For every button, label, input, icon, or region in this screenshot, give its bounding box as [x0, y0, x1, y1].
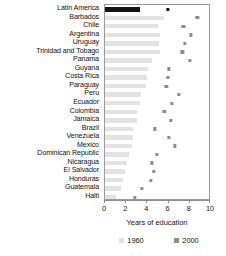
- legend: 1960 2000: [104, 236, 214, 245]
- marker-2000: [173, 144, 176, 147]
- bar-row: [105, 184, 209, 193]
- legend-label-2000: 2000: [182, 236, 198, 245]
- x-tick-label: 6: [166, 204, 170, 213]
- category-label: Nicaragua: [0, 158, 102, 167]
- marker-2000: [140, 187, 143, 190]
- category-label: El Salvador: [0, 166, 102, 175]
- category-label: Latin America: [0, 4, 102, 13]
- x-tick-label: 0: [102, 204, 106, 213]
- marker-2000: [165, 85, 168, 88]
- bar-1960: [105, 186, 121, 190]
- bar-row: [105, 82, 209, 91]
- category-label: Argentina: [0, 30, 102, 39]
- x-tick: [209, 200, 210, 203]
- marker-2000: [167, 136, 170, 139]
- bar-1960: [105, 169, 125, 173]
- bar-row: [105, 167, 209, 176]
- bar-row: [105, 39, 209, 48]
- bar-row: [105, 5, 209, 14]
- category-label: Panama: [0, 55, 102, 64]
- legend-item-1960: 1960: [119, 236, 143, 245]
- bar-row: [105, 14, 209, 23]
- category-label: Paraguay: [0, 81, 102, 90]
- bar-1960: [105, 195, 116, 199]
- bar-1960: [105, 92, 141, 96]
- bar-1960: [105, 161, 127, 165]
- bar-1960: [105, 101, 140, 105]
- plot-area: [104, 4, 210, 200]
- category-label: Trinidad and Tobago: [0, 47, 102, 56]
- x-axis-title: Years of education: [104, 218, 210, 227]
- bar-1960: [105, 135, 133, 139]
- category-label: Venezuela: [0, 132, 102, 141]
- bar-1960: [105, 24, 158, 28]
- bar-1960: [105, 152, 129, 156]
- legend-item-2000: 2000: [174, 236, 198, 245]
- category-label: Uruguay: [0, 38, 102, 47]
- category-label: Peru: [0, 89, 102, 98]
- marker-2000: [167, 67, 170, 70]
- bar-row: [105, 73, 209, 82]
- x-tick-label: 8: [187, 204, 191, 213]
- marker-2000: [169, 119, 172, 122]
- marker-2000: [133, 196, 136, 199]
- marker-2000: [181, 50, 184, 53]
- x-tick: [125, 200, 126, 203]
- bar-row: [105, 48, 209, 57]
- category-label: Colombia: [0, 107, 102, 116]
- marker-2000: [149, 179, 152, 182]
- category-label: Guyana: [0, 64, 102, 73]
- marker-2000: [152, 170, 155, 173]
- marker-2000: [182, 25, 185, 28]
- marker-2000: [163, 110, 166, 113]
- x-tick: [146, 200, 147, 203]
- marker-2000: [166, 76, 169, 79]
- marker-2000: [183, 42, 186, 45]
- bar-1960: [105, 75, 147, 79]
- bar-1960: [105, 127, 133, 131]
- bar-1960: [105, 67, 148, 71]
- bar-row: [105, 56, 209, 65]
- marker-2000: [170, 102, 173, 105]
- category-label: Dominican Republic: [0, 149, 102, 158]
- bar-1960: [105, 50, 160, 54]
- category-label: Honduras: [0, 175, 102, 184]
- marker-2000: [155, 153, 158, 156]
- bar-1960: [105, 33, 160, 37]
- bar-1960: [105, 58, 152, 62]
- bar-row: [105, 31, 209, 40]
- x-tick-label: 10: [206, 204, 214, 213]
- legend-swatch-2000: [174, 238, 179, 243]
- bar-row: [105, 108, 209, 117]
- category-axis-labels: Latin AmericaBarbadosChileArgentinaUrugu…: [0, 4, 102, 201]
- bar-row: [105, 65, 209, 74]
- bar-1960: [105, 110, 137, 114]
- x-tick: [104, 200, 105, 203]
- marker-2000: [150, 161, 153, 164]
- category-label: Chile: [0, 21, 102, 30]
- marker-2000: [178, 93, 181, 96]
- x-axis: 0246810: [104, 200, 210, 201]
- bar-row: [105, 150, 209, 159]
- bar-row: [105, 22, 209, 31]
- category-label: Barbados: [0, 13, 102, 22]
- bar-row: [105, 116, 209, 125]
- marker-2000: [189, 33, 192, 36]
- bar-1960: [105, 7, 140, 12]
- category-label: Ecuador: [0, 98, 102, 107]
- bar-1960: [105, 144, 132, 148]
- bar-row: [105, 133, 209, 142]
- bar-row: [105, 99, 209, 108]
- category-label: Guatemala: [0, 183, 102, 192]
- marker-2000: [153, 127, 156, 130]
- x-tick: [189, 200, 190, 203]
- category-label: Mexico: [0, 141, 102, 150]
- bar-row: [105, 142, 209, 151]
- bar-rows: [105, 5, 209, 199]
- marker-2000: [166, 8, 169, 11]
- bar-1960: [105, 84, 146, 88]
- marker-2000: [188, 59, 191, 62]
- x-tick: [168, 200, 169, 203]
- bar-row: [105, 90, 209, 99]
- category-label: Haiti: [0, 192, 102, 201]
